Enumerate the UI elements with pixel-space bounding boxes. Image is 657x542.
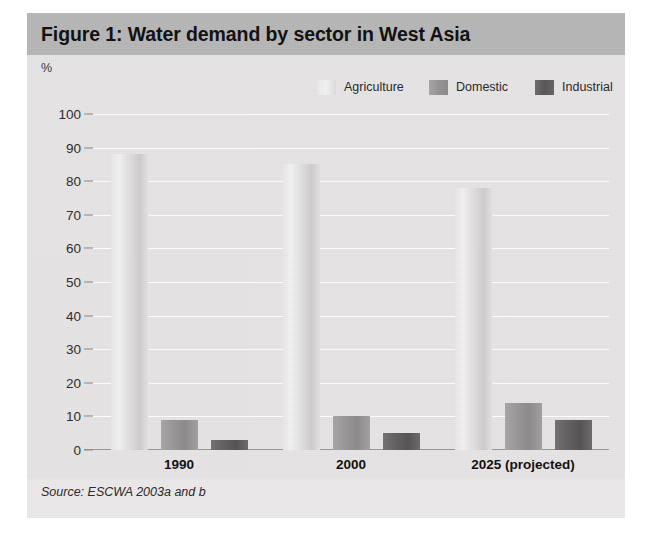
y-axis-tick [84,382,93,383]
plot-area: 0102030405060708090100 [93,114,609,450]
y-axis-tick [84,248,93,249]
y-axis-tick [84,450,93,451]
chart-legend: AgricultureDomesticIndustrial [317,77,625,99]
figure-title-band: Figure 1: Water demand by sector in West… [27,13,625,55]
y-axis-tick-label: 100 [58,107,81,122]
bar-domestic-2000 [333,416,370,450]
figure-root: Figure 1: Water demand by sector in West… [0,0,657,542]
gridline [93,148,609,149]
bar-industrial-2000 [383,433,420,450]
y-axis-tick [84,349,93,350]
y-axis-tick [84,282,93,283]
legend-swatch-domestic-icon [429,80,448,95]
legend-swatch-agriculture-icon [317,80,336,95]
y-axis-tick-label: 90 [66,140,81,155]
legend-label-domestic: Domestic [456,80,508,94]
source-note: Source: ESCWA 2003a and b [41,485,206,499]
bar-agriculture-2025-projected- [455,188,492,450]
y-axis-tick-label: 60 [66,241,81,256]
y-axis-tick-label: 50 [66,275,81,290]
bar-agriculture-1990 [111,154,148,450]
y-axis-tick [84,214,93,215]
y-axis-tick-label: 10 [66,409,81,424]
gridline [93,383,609,384]
gridline [93,181,609,182]
legend-label-industrial: Industrial [562,80,613,94]
legend-label-agriculture: Agriculture [344,80,404,94]
y-axis-tick [84,147,93,148]
gridline [93,114,609,115]
x-axis-label-2025-projected-: 2025 (projected) [471,457,575,472]
page-title: Figure 1: Water demand by sector in West… [27,23,470,46]
y-axis-tick-label: 0 [73,443,81,458]
gridline [93,316,609,317]
gridline [93,349,609,350]
gridline [93,215,609,216]
x-axis-label-1990: 1990 [164,457,194,472]
bar-domestic-2025-projected- [505,403,542,450]
bar-agriculture-2000 [283,164,320,450]
legend-item-agriculture[interactable]: Agriculture [317,77,404,97]
y-axis-tick [84,114,93,115]
y-axis-tick-label: 20 [66,375,81,390]
gridline [93,248,609,249]
legend-item-industrial[interactable]: Industrial [535,77,613,97]
y-axis-tick [84,315,93,316]
legend-item-domestic[interactable]: Domestic [429,77,508,97]
figure-card: Figure 1: Water demand by sector in West… [27,13,625,518]
y-axis-tick-label: 40 [66,308,81,323]
y-axis-tick [84,181,93,182]
y-axis-unit-label: % [41,61,52,75]
gridline [93,282,609,283]
y-axis-tick-label: 30 [66,342,81,357]
x-axis-label-2000: 2000 [336,457,366,472]
y-axis-tick-label: 80 [66,174,81,189]
y-axis-tick [84,416,93,417]
bar-industrial-2025-projected- [555,420,592,450]
bar-industrial-1990 [211,440,248,450]
bar-domestic-1990 [161,420,198,450]
legend-swatch-industrial-icon [535,80,554,95]
y-axis-tick-label: 70 [66,207,81,222]
